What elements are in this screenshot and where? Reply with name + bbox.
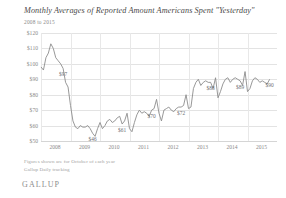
chart-page: Monthly Averages of Reported Amount Amer…	[0, 0, 286, 198]
point-annotation: $89	[236, 84, 244, 90]
page-title: Monthly Averages of Reported Amount Amer…	[24, 6, 255, 15]
plot-area: $97$46$61$70$72$88$89$90	[41, 33, 277, 141]
point-annotation: $70	[148, 113, 156, 119]
x-axis-tick: 2014	[226, 144, 237, 150]
y-axis-tick: $90	[30, 76, 38, 82]
y-axis-tick: $60	[30, 123, 38, 129]
x-axis-labels: 20082009201020112012201320142015	[41, 144, 277, 154]
x-axis-tick: 2008	[49, 144, 60, 150]
point-annotation: $61	[118, 127, 126, 133]
x-axis-tick: 2013	[197, 144, 208, 150]
x-axis-tick: 2015	[256, 144, 267, 150]
x-axis-tick: 2011	[138, 144, 149, 150]
gallup-logo: GALLUP	[22, 180, 60, 189]
y-axis-tick: $70	[30, 107, 38, 113]
page-subtitle: 2008 to 2015	[24, 19, 55, 25]
series-line	[41, 44, 270, 137]
footnote-october: Figures shown are for October of each ye…	[24, 159, 115, 164]
x-axis-line	[41, 141, 277, 142]
x-axis-tick: 2009	[79, 144, 90, 150]
y-axis-tick: $120	[27, 30, 38, 36]
y-axis-labels: $50$60$70$80$90$100$110$120	[0, 33, 38, 141]
footnote-source: Gallup Daily tracking	[24, 167, 70, 172]
x-axis-tick: 2010	[108, 144, 119, 150]
y-axis-tick: $100	[27, 61, 38, 67]
y-axis-tick: $50	[30, 138, 38, 144]
x-axis-tick: 2012	[167, 144, 178, 150]
point-annotation: $46	[89, 136, 97, 142]
point-annotation: $88	[207, 85, 215, 91]
point-annotation: $90	[266, 82, 274, 88]
point-annotation: $97	[59, 71, 67, 77]
y-axis-tick: $110	[27, 45, 38, 51]
point-annotation: $72	[177, 110, 185, 116]
y-axis-tick: $80	[30, 92, 38, 98]
